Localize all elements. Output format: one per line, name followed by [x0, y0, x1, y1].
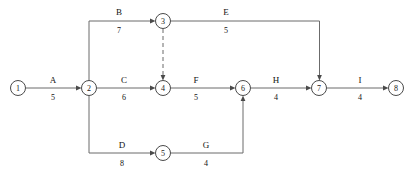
edge-label-F-duration: 5: [194, 94, 198, 102]
node-6[interactable]: 6: [236, 81, 251, 96]
arrow-head-B: [150, 19, 156, 24]
edge-paths: [26, 19, 389, 156]
arrow-head-dummy-3-4: [161, 75, 166, 81]
node-5[interactable]: 5: [156, 146, 171, 161]
edge-label-D-name: D: [119, 141, 126, 150]
edge-label-E-duration: 5: [224, 27, 228, 35]
edge-label-H-name: H: [273, 76, 280, 85]
arrow-head-G: [241, 96, 246, 102]
edge-label-B-name: B: [116, 8, 122, 17]
edge-label-I-name: I: [359, 76, 362, 85]
node-3[interactable]: 3: [156, 14, 171, 29]
arrow-head-E: [317, 75, 322, 81]
node-8-label: 8: [394, 84, 398, 93]
node-4-label: 4: [161, 84, 165, 93]
edge-label-G-duration: 4: [204, 160, 208, 168]
edge-label-B-duration: 7: [117, 27, 121, 35]
arrow-head-H: [306, 86, 312, 91]
edge-label-F-name: F: [193, 76, 198, 85]
node-8[interactable]: 8: [389, 81, 404, 96]
edge-label-G-name: G: [203, 141, 210, 150]
node-1-label: 1: [16, 84, 20, 93]
arrow-head-D: [150, 151, 156, 156]
network-diagram-canvas: 1 2 3 4 5 6 7 8 A 5: [0, 0, 413, 174]
edge-label-C-duration: 6: [122, 94, 126, 102]
arrow-head-I: [383, 86, 389, 91]
edge-label-H-duration: 4: [274, 94, 278, 102]
arrow-head-C: [150, 86, 156, 91]
arrow-head-A: [76, 86, 82, 91]
node-2-label: 2: [87, 84, 91, 93]
edge-path-B: [89, 21, 153, 81]
arrow-head-F: [230, 86, 236, 91]
node-7-label: 7: [317, 84, 321, 93]
node-3-label: 3: [161, 17, 165, 26]
node-7[interactable]: 7: [312, 81, 327, 96]
edge-label-D-duration: 8: [120, 160, 124, 168]
node-5-label: 5: [161, 149, 165, 158]
edge-label-A-duration: 5: [51, 94, 55, 102]
edge-label-I-duration: 4: [358, 94, 362, 102]
node-4[interactable]: 4: [156, 81, 171, 96]
node-6-label: 6: [241, 84, 245, 93]
edge-path-E: [171, 21, 320, 78]
edge-label-A-name: A: [50, 76, 57, 85]
edge-label-E-name: E: [223, 8, 229, 17]
node-2[interactable]: 2: [82, 81, 97, 96]
edge-label-C-name: C: [121, 76, 127, 85]
node-1[interactable]: 1: [11, 81, 26, 96]
